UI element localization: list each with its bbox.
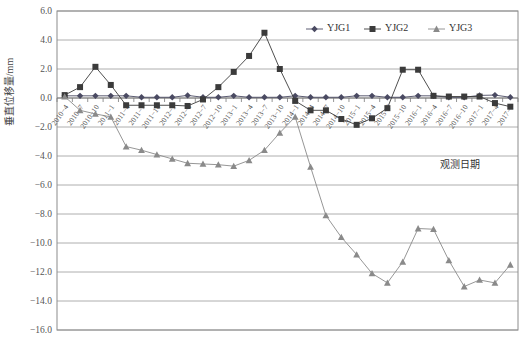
y-tick-label: −6.0 xyxy=(35,180,52,190)
data-point-square xyxy=(323,107,329,113)
data-point-square xyxy=(338,116,344,122)
data-point-square xyxy=(139,102,145,108)
y-tick-label: 4.0 xyxy=(40,35,52,45)
y-tick-label: 0.0 xyxy=(40,93,52,103)
data-point-square xyxy=(384,105,390,111)
data-point-square xyxy=(231,69,237,75)
data-point-square xyxy=(246,53,252,59)
data-point-square xyxy=(400,67,406,73)
data-point-square xyxy=(354,122,360,128)
y-tick-label: −10.0 xyxy=(30,238,52,248)
data-point-square xyxy=(369,115,375,121)
data-point-square xyxy=(154,102,160,108)
data-point-square xyxy=(461,94,467,100)
data-point-square xyxy=(169,102,175,108)
data-point-square xyxy=(308,107,314,113)
y-tick-label: −14.0 xyxy=(30,296,52,306)
data-point-square xyxy=(108,82,114,88)
chart-container: 6.04.02.00.0−2.0−4.0−6.0−8.0−10.0−12.0−1… xyxy=(0,0,524,342)
data-point-square xyxy=(446,94,452,100)
data-point-square xyxy=(430,93,436,99)
data-point-square xyxy=(123,102,129,108)
data-point-square xyxy=(492,100,498,106)
data-point-square xyxy=(292,98,298,104)
y-axis-title: 垂直位移量/mm xyxy=(3,58,15,127)
y-tick-label: −2.0 xyxy=(35,122,52,132)
data-point-square xyxy=(415,67,421,73)
data-point-square xyxy=(215,84,221,90)
data-point-square xyxy=(370,26,376,32)
data-point-square xyxy=(507,104,513,110)
y-tick-label: −4.0 xyxy=(35,151,52,161)
y-tick-label: 2.0 xyxy=(40,64,52,74)
data-point-square xyxy=(77,84,83,90)
data-point-square xyxy=(200,96,206,102)
y-tick-label: −8.0 xyxy=(35,209,52,219)
legend-label-YJG1: YJG1 xyxy=(327,22,350,33)
data-point-square xyxy=(92,64,98,70)
y-tick-label: −12.0 xyxy=(30,267,52,277)
line-chart: 6.04.02.00.0−2.0−4.0−6.0−8.0−10.0−12.0−1… xyxy=(0,0,524,342)
legend-label-YJG3: YJG3 xyxy=(449,22,472,33)
legend-label-YJG2: YJG2 xyxy=(385,22,408,33)
data-point-square xyxy=(261,30,267,36)
data-point-square xyxy=(185,103,191,109)
data-point-square xyxy=(277,66,283,72)
x-axis-title: 观测日期 xyxy=(440,158,480,170)
data-point-square xyxy=(477,94,483,100)
y-tick-label: −16.0 xyxy=(30,325,52,335)
y-tick-label: 6.0 xyxy=(40,6,52,16)
